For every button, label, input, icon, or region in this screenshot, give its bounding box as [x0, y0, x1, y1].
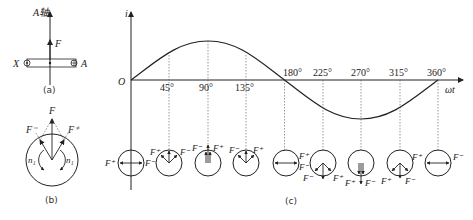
- svg-text:F⁻: F⁻: [302, 173, 314, 183]
- svg-text:F⁺: F⁺: [212, 143, 224, 153]
- b-left-speed: n₁: [28, 155, 36, 165]
- tick-90: 90°: [199, 82, 213, 93]
- svg-text:F⁻: F⁻: [191, 143, 203, 153]
- b-plus-label: F⁺: [67, 124, 80, 135]
- svg-text:F⁺: F⁺: [380, 176, 392, 186]
- svg-text:F⁻: F⁻: [179, 147, 191, 157]
- svg-text:F⁻: F⁻: [364, 178, 376, 188]
- b-rotation-left-icon: [39, 150, 44, 170]
- tick-180: 180°: [283, 67, 302, 78]
- phasor-0: F⁺ F⁻: [104, 150, 156, 176]
- tick-270: 270°: [351, 67, 370, 78]
- panel-a: A轴 F X A (a): [12, 7, 88, 95]
- panel-c: i ωt O 45° 90° 135° 180° 225° 270° 315° …: [104, 8, 464, 206]
- origin-label: O: [118, 76, 125, 87]
- b-backward-arrow-icon: [40, 140, 52, 160]
- b-minus-label: F⁻: [25, 124, 38, 135]
- tick-135: 135°: [235, 82, 254, 93]
- tick-225: 225°: [313, 67, 332, 78]
- svg-text:F⁺: F⁺: [411, 152, 423, 162]
- tick-45: 45°: [160, 82, 174, 93]
- svg-text:F⁻: F⁻: [144, 158, 156, 168]
- caption-b: (b): [45, 195, 58, 205]
- svg-text:F⁺: F⁺: [332, 173, 344, 183]
- caption-a: (a): [43, 85, 56, 95]
- y-axis-label: i: [125, 8, 128, 19]
- svg-text:F⁻: F⁻: [228, 145, 240, 155]
- caption-c: (c): [285, 196, 297, 206]
- panel-b: F F⁻ F⁺ n₁ n₁ (b): [25, 105, 80, 205]
- svg-text:F⁺: F⁺: [344, 178, 356, 188]
- b-force-label: F: [48, 105, 56, 116]
- b-forward-arrow-icon: [52, 140, 64, 160]
- svg-text:F⁻: F⁻: [404, 176, 416, 186]
- svg-text:F⁺: F⁺: [149, 147, 161, 157]
- svg-text:F⁻: F⁻: [298, 162, 310, 172]
- coil-bar: [27, 59, 76, 67]
- tick-315: 315°: [389, 67, 408, 78]
- diagram-canvas: A轴 F X A (a) F F⁻ F⁺ n₁ n₁ (b) i ωt O: [0, 0, 473, 220]
- a-axis-label: A轴: [32, 7, 50, 18]
- right-terminal-label: A: [80, 58, 88, 69]
- tick-360: 360°: [427, 67, 446, 78]
- svg-text:F⁻: F⁻: [452, 152, 464, 162]
- phasor-90: F⁻ F⁺: [191, 143, 224, 176]
- x-axis-label: ωt: [445, 84, 455, 95]
- b-right-speed: n₁: [66, 155, 74, 165]
- b-rotation-right-icon: [60, 150, 65, 170]
- phasor-360: F⁺ F⁻: [411, 150, 464, 176]
- a-force-label: F: [54, 38, 62, 49]
- phasor-135: F⁻ F⁺: [228, 145, 264, 176]
- phasor-270: F⁺ F⁻: [344, 150, 376, 188]
- left-terminal-label: X: [12, 58, 20, 69]
- angle-guides: [169, 41, 438, 152]
- svg-text:F⁺: F⁺: [252, 145, 264, 155]
- svg-text:F⁺: F⁺: [298, 151, 310, 161]
- svg-text:F⁺: F⁺: [104, 158, 116, 168]
